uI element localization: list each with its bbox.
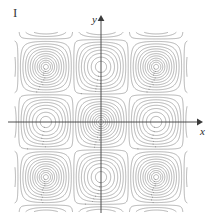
contour-line bbox=[151, 172, 160, 181]
contour-line bbox=[23, 154, 69, 200]
y-axis-label: y bbox=[92, 14, 97, 25]
contour-line bbox=[154, 64, 159, 69]
contour-line bbox=[145, 166, 167, 188]
contour-line bbox=[136, 157, 177, 198]
contour-line bbox=[145, 56, 167, 78]
contour-line bbox=[145, 210, 168, 211]
contour-line bbox=[28, 159, 64, 195]
contour-line bbox=[151, 62, 160, 71]
contour-line bbox=[41, 62, 50, 71]
contour-line bbox=[35, 56, 57, 78]
contour-plot-svg bbox=[0, 0, 214, 221]
contour-line bbox=[147, 168, 164, 185]
contour-line bbox=[143, 164, 169, 190]
contour-line bbox=[143, 54, 169, 80]
contour-line bbox=[23, 44, 69, 90]
contour-line bbox=[34, 210, 57, 211]
contour-line bbox=[154, 175, 159, 180]
contour-line bbox=[28, 49, 64, 85]
contour-line bbox=[37, 168, 54, 185]
contour-line bbox=[33, 54, 59, 80]
contour-line bbox=[145, 33, 168, 34]
contour-line bbox=[43, 64, 48, 69]
contour-line bbox=[26, 157, 67, 198]
contour-line bbox=[136, 33, 176, 37]
contour-line bbox=[41, 172, 50, 181]
contour-line bbox=[147, 58, 164, 75]
contour-line bbox=[136, 47, 177, 88]
x-axis-label: x bbox=[200, 126, 205, 137]
contour-line bbox=[37, 58, 54, 75]
contour-line bbox=[133, 44, 179, 90]
contour-line bbox=[133, 154, 179, 200]
y-axis-arrowhead bbox=[98, 15, 105, 21]
contour-line bbox=[26, 47, 67, 88]
contour-figure: I y x bbox=[0, 0, 214, 221]
contour-line bbox=[136, 208, 176, 212]
contour-line bbox=[138, 159, 174, 195]
contour-line bbox=[43, 175, 48, 180]
contour-line bbox=[138, 49, 174, 85]
contour-line bbox=[26, 208, 66, 212]
contour-line bbox=[33, 164, 59, 190]
contour-line bbox=[35, 166, 57, 188]
contour-line bbox=[34, 33, 57, 34]
panel-label: I bbox=[13, 6, 17, 19]
contour-line bbox=[26, 33, 66, 37]
